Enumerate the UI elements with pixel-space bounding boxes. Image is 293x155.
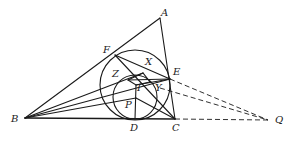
label-a: A xyxy=(161,8,168,18)
geometry-figure: A B C D E F Z I P X Y Q xyxy=(0,0,293,155)
segment-b-e xyxy=(25,79,170,118)
side-ab xyxy=(25,18,160,118)
label-y: Y xyxy=(155,83,162,93)
label-z: Z xyxy=(112,69,119,79)
diagram-canvas xyxy=(0,0,293,155)
label-p: P xyxy=(125,100,132,110)
label-f: F xyxy=(103,45,110,55)
dashed-e-q xyxy=(170,79,268,120)
label-c: C xyxy=(172,123,180,133)
label-x: X xyxy=(145,57,152,67)
dashed-y-q xyxy=(160,88,268,120)
dashed-c-q xyxy=(175,119,268,120)
label-i: I xyxy=(137,83,141,93)
label-b: B xyxy=(11,114,18,124)
label-e: E xyxy=(173,67,180,77)
segment-b-z xyxy=(25,73,143,118)
side-bc xyxy=(25,118,175,119)
label-q: Q xyxy=(275,115,283,125)
segment-i-d xyxy=(135,85,136,119)
segment-b-p xyxy=(25,98,136,118)
label-d: D xyxy=(130,123,138,133)
segment-f-e xyxy=(115,55,170,79)
segment-p-c xyxy=(136,98,175,119)
